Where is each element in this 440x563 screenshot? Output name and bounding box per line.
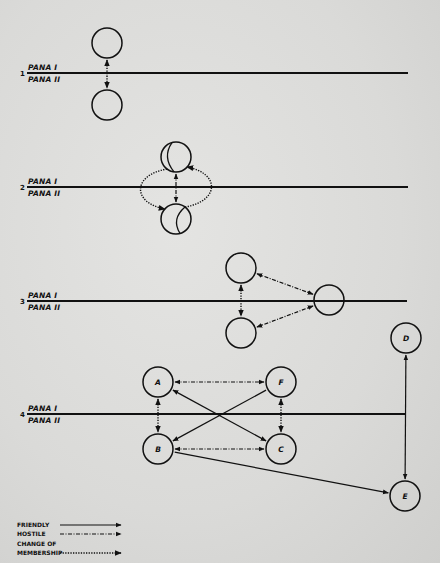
panel-3: 3PANA IPANA II xyxy=(20,291,407,312)
legend-label: HOSTILE xyxy=(17,530,46,537)
nodes-layer: AFBCDE xyxy=(92,28,421,511)
node-label: E xyxy=(402,492,408,501)
legend-label: MEMBERSHIP xyxy=(17,549,63,556)
node-p1-bottom xyxy=(92,90,122,120)
group-circle xyxy=(226,253,256,283)
node-p1-top xyxy=(92,28,122,58)
panel-number: 3 xyxy=(20,298,25,306)
relation-hostile-p3-bottom-p3-right xyxy=(257,306,313,327)
pana-2-label: PANA II xyxy=(28,75,60,84)
pana-1-label: PANA I xyxy=(28,177,57,186)
legend-label: FRIENDLY xyxy=(17,521,50,528)
relation-friendly-b-e xyxy=(175,452,389,493)
group-circle xyxy=(161,204,191,234)
node-label: B xyxy=(155,445,161,454)
panels-layer: 1PANA IPANA II2PANA IPANA II3PANA IPANA … xyxy=(20,63,408,425)
node-label: D xyxy=(403,334,409,343)
node-p3-top xyxy=(226,253,256,283)
node-label: F xyxy=(278,378,284,387)
node-p2-top xyxy=(161,142,191,172)
panel-number: 2 xyxy=(20,184,25,192)
group-circle xyxy=(226,318,256,348)
pana-2-label: PANA II xyxy=(28,303,60,312)
legend-item-hostile: HOSTILE xyxy=(17,530,121,537)
relation-friendly-d-e xyxy=(405,355,406,479)
node-p3-bottom xyxy=(226,318,256,348)
split-arc xyxy=(176,207,185,233)
legend: FRIENDLYHOSTILECHANGE OFMEMBERSHIP xyxy=(17,521,121,556)
node-a: A xyxy=(143,367,173,397)
node-e: E xyxy=(390,481,420,511)
diagram-canvas: 1PANA IPANA II2PANA IPANA II3PANA IPANA … xyxy=(0,0,440,563)
pana-2-label: PANA II xyxy=(28,416,60,425)
group-circle xyxy=(92,28,122,58)
panel-1: 1PANA IPANA II xyxy=(20,63,408,84)
legend-item-friendly: FRIENDLY xyxy=(17,521,121,528)
panel-4: 4PANA IPANA II xyxy=(20,404,406,425)
node-c: C xyxy=(266,434,296,464)
node-p2-bottom xyxy=(161,204,191,234)
relations-layer xyxy=(107,60,406,493)
coalition-diagram: 1PANA IPANA II2PANA IPANA II3PANA IPANA … xyxy=(0,0,440,563)
relation-hostile-p3-top-p3-right xyxy=(257,274,313,294)
panel-2: 2PANA IPANA II xyxy=(20,177,408,198)
pana-2-label: PANA II xyxy=(28,189,60,198)
legend-item-membership: CHANGE OFMEMBERSHIP xyxy=(17,540,121,557)
pana-1-label: PANA I xyxy=(28,63,57,72)
group-circle xyxy=(92,90,122,120)
node-label: A xyxy=(154,378,161,387)
panel-number: 4 xyxy=(20,411,25,419)
node-d: D xyxy=(391,323,421,353)
panel-number: 1 xyxy=(20,70,25,78)
relation-membership-p2-top-p2-bottom xyxy=(140,169,167,209)
node-label: C xyxy=(278,445,284,454)
split-arc xyxy=(167,143,174,172)
pana-1-label: PANA I xyxy=(28,404,57,413)
node-b: B xyxy=(143,434,173,464)
group-circle xyxy=(161,142,191,172)
pana-1-label: PANA I xyxy=(28,291,57,300)
legend-label-line1: CHANGE OF xyxy=(17,540,56,547)
node-f: F xyxy=(266,367,296,397)
